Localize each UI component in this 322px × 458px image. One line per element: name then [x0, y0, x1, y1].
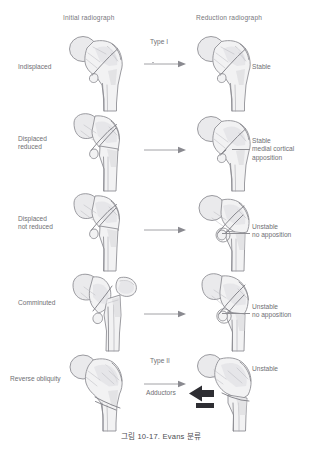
row-comminuted: Comminuted [0, 273, 322, 351]
row-undisplaced: Indisplaced [0, 33, 322, 111]
figure-caption: 그림 10-17. Evans 분류 [0, 430, 322, 441]
type-label-type-2: Type II [150, 357, 170, 364]
force-label-adductors: Adductors [146, 389, 176, 396]
row-displaced-reduced: Displaced reduced [0, 113, 322, 191]
row-label-right-stable: Stable [252, 63, 322, 71]
bone-reduction-stable [190, 33, 276, 111]
evans-classification-figure: Initial radiograph Reduction radiograph … [0, 0, 322, 458]
row-reverse-obliquity: Reverse obliquity Type II [0, 353, 322, 431]
leader-line-row-4 [222, 313, 250, 314]
bone-initial-reverse-obliquity [62, 353, 148, 431]
reduction-arrow-row-5 [144, 379, 186, 389]
leader-line-row-2 [232, 149, 250, 150]
row-label-right-comminuted-unstable: Unstable no apposition [252, 303, 322, 320]
row-label-right-unstable-no-apposition: Unstable no apposition [252, 223, 322, 240]
row-label-right-stable-apposition: Stable medial cortical apposition [252, 137, 322, 162]
leader-line-row-3 [222, 233, 250, 234]
column-header-reduction-radiograph: Reduction radiograph [196, 14, 262, 21]
reduction-arrow-row-4 [144, 309, 186, 319]
bone-initial-displaced-not-reduced [62, 193, 148, 271]
row-label-right-reverse-obliquity-unstable: Unstable [252, 365, 322, 373]
row-displaced-not-reduced: Displaced not reduced [0, 193, 322, 271]
reduction-arrow-row-1 [144, 59, 186, 69]
bone-initial-displaced [62, 113, 148, 191]
bone-initial-undisplaced [62, 33, 148, 111]
reduction-arrow-row-3 [144, 225, 186, 235]
reduction-arrow-row-2 [144, 145, 186, 155]
type-label-type-1: Type I [150, 38, 168, 45]
column-header-initial-radiograph: Initial radiograph [63, 14, 114, 21]
bone-initial-comminuted [62, 273, 148, 351]
